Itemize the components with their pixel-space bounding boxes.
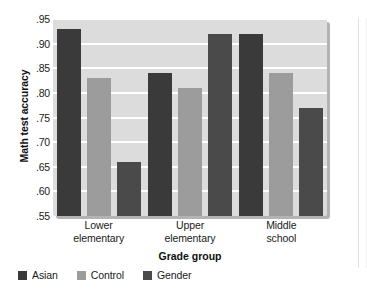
legend-item-control: Control — [77, 269, 124, 281]
legend-label: Control — [91, 269, 124, 281]
x-axis-tick-label-line: elementary — [49, 232, 149, 245]
legend-item-gender: Gender — [143, 269, 191, 281]
y-axis-tick-label: .75 — [36, 112, 50, 124]
bar-group — [53, 19, 327, 216]
x-axis-tick-label-line: school — [231, 232, 331, 245]
y-axis-tick-label: .70 — [36, 136, 50, 148]
bar-chart-figure: Math test accuracy .95.90.85.80.75.70.65… — [0, 0, 367, 292]
x-axis-tick-label-line: elementary — [140, 232, 240, 245]
x-axis-tick-label: Upperelementary — [140, 219, 240, 244]
legend-swatch-icon — [77, 271, 86, 280]
y-axis-tick-label: .90 — [36, 38, 50, 50]
legend-swatch-icon — [18, 271, 27, 280]
page-edge-line — [358, 18, 359, 268]
bar-asian-3 — [239, 34, 263, 216]
plot-area — [53, 19, 327, 216]
legend-label: Asian — [32, 269, 58, 281]
bar-gender-3 — [299, 108, 323, 216]
legend-label: Gender — [157, 269, 191, 281]
y-axis-tick-label: .95 — [36, 13, 50, 25]
y-axis-tick-label: .60 — [36, 185, 50, 197]
x-axis-tick-labels: LowerelementaryUpperelementaryMiddlescho… — [53, 219, 327, 253]
x-axis-tick-label: Lowerelementary — [49, 219, 149, 244]
y-axis-tick-label: .65 — [36, 161, 50, 173]
x-axis-tick-label: Middleschool — [231, 219, 331, 244]
y-axis-tick-labels: .95.90.85.80.75.70.65.60.55 — [22, 19, 50, 216]
y-axis-tick-label: .85 — [36, 62, 50, 74]
legend: AsianControlGender — [18, 269, 210, 281]
legend-item-asian: Asian — [18, 269, 58, 281]
x-axis-tick-label-line: Middle — [231, 219, 331, 232]
x-axis-tick-label-line: Upper — [140, 219, 240, 232]
legend-swatch-icon — [143, 271, 152, 280]
bar-control-3 — [269, 73, 293, 216]
x-axis-tick-label-line: Lower — [49, 219, 149, 232]
y-axis-tick-label: .80 — [36, 87, 50, 99]
x-axis-title: Grade group — [53, 250, 327, 262]
